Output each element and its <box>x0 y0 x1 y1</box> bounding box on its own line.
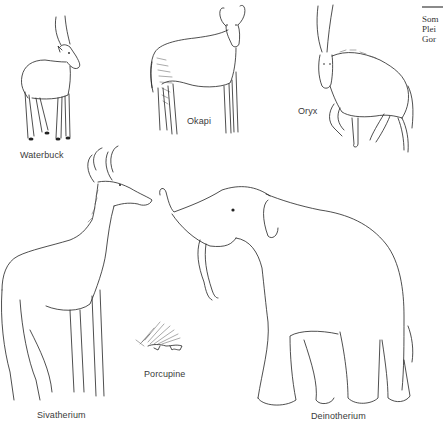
porcupine-drawing <box>136 322 182 350</box>
caption-line: Plei <box>422 24 439 34</box>
side-caption: Som Plei Gor <box>422 14 439 44</box>
oryx-label: Oryx <box>298 106 317 116</box>
oryx-drawing <box>317 5 413 152</box>
deinotherium-drawing <box>160 187 413 405</box>
caption-line: Som <box>422 14 439 24</box>
deinotherium-label: Deinotherium <box>311 411 366 421</box>
okapi-label: Okapi <box>187 116 211 126</box>
waterbuck-label: Waterbuck <box>20 150 64 160</box>
sivatherium-label: Sivatherium <box>37 410 86 420</box>
animal-drawings <box>0 0 443 427</box>
caption-rule <box>422 6 443 8</box>
illustration-plate: Waterbuck Okapi Oryx Sivatherium Porcupi… <box>0 0 443 427</box>
okapi-drawing <box>151 5 245 134</box>
caption-line: Gor <box>422 34 439 44</box>
porcupine-label: Porcupine <box>144 369 185 379</box>
waterbuck-drawing <box>21 16 79 141</box>
sivatherium-drawing <box>1 146 152 400</box>
